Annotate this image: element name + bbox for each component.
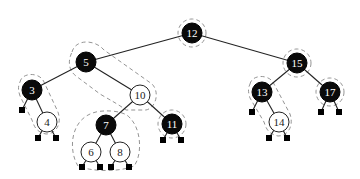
nil-leaf xyxy=(53,135,59,141)
svg-text:7: 7 xyxy=(103,119,109,131)
svg-text:5: 5 xyxy=(83,56,89,68)
node-12: 12 xyxy=(182,23,202,43)
nil-leaf xyxy=(178,137,184,143)
node-15: 15 xyxy=(287,53,307,73)
nil-leaf xyxy=(336,109,342,115)
node-14: 14 xyxy=(269,112,289,132)
svg-text:10: 10 xyxy=(135,89,147,101)
nil-leaf xyxy=(126,164,132,170)
node-11: 11 xyxy=(162,114,182,134)
svg-text:4: 4 xyxy=(44,116,50,128)
node-17: 17 xyxy=(320,82,340,102)
svg-text:12: 12 xyxy=(187,27,198,39)
nil-leaf xyxy=(108,164,114,170)
red-black-tree-diagram: 12 5 15 3 10 13 17 4 7 11 14 6 8 xyxy=(0,0,360,179)
node-13: 13 xyxy=(252,82,272,102)
nil-leaf xyxy=(160,137,166,143)
nil-leaf xyxy=(35,135,41,141)
nil-leaf xyxy=(19,107,25,113)
nil-leaf xyxy=(284,135,290,141)
nil-leaf xyxy=(266,135,272,141)
node-8: 8 xyxy=(110,142,130,162)
nil-leaves xyxy=(19,107,342,170)
svg-text:15: 15 xyxy=(292,57,304,69)
nil-leaf xyxy=(79,164,85,170)
nil-leaf xyxy=(318,109,324,115)
node-10: 10 xyxy=(130,85,150,105)
svg-text:17: 17 xyxy=(325,86,337,98)
node-3: 3 xyxy=(22,80,42,100)
nil-leaf xyxy=(97,164,103,170)
node-7: 7 xyxy=(96,115,116,135)
svg-text:11: 11 xyxy=(167,118,178,130)
svg-text:13: 13 xyxy=(257,86,269,98)
node-6: 6 xyxy=(81,142,101,162)
cluster-outlines xyxy=(19,19,345,171)
node-4: 4 xyxy=(37,112,57,132)
svg-text:8: 8 xyxy=(117,146,123,158)
node-5: 5 xyxy=(76,52,96,72)
svg-text:6: 6 xyxy=(88,146,94,158)
svg-text:14: 14 xyxy=(274,116,286,128)
nil-leaf xyxy=(249,109,255,115)
svg-text:3: 3 xyxy=(29,84,35,96)
edges xyxy=(22,33,339,167)
